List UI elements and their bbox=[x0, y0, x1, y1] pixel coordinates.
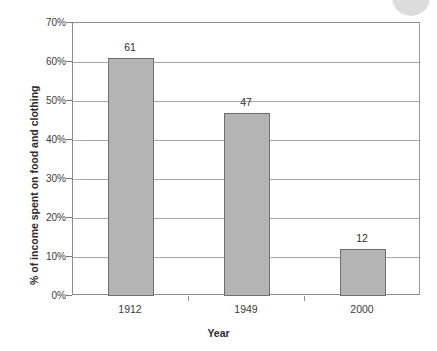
bar bbox=[340, 249, 386, 296]
bar-chart: % of income spent on food and clothing 0… bbox=[0, 0, 437, 351]
y-axis-tick-label: 50% bbox=[6, 95, 66, 106]
bar-value-label: 47 bbox=[240, 96, 252, 108]
bar bbox=[108, 58, 154, 296]
bar-value-label: 12 bbox=[356, 232, 368, 244]
y-axis-tick-label: 20% bbox=[6, 212, 66, 223]
y-axis-tick-label: 0% bbox=[6, 290, 66, 301]
x-axis-category-label: 2000 bbox=[350, 303, 373, 315]
y-axis-tick-mark bbox=[66, 295, 72, 296]
y-axis-tick-label: 70% bbox=[6, 17, 66, 28]
y-axis-tick-label: 30% bbox=[6, 173, 66, 184]
y-axis-tick-label: 60% bbox=[6, 56, 66, 67]
x-axis-tick-mark bbox=[304, 296, 305, 301]
plot-area bbox=[72, 22, 420, 295]
x-axis-tick-mark bbox=[188, 296, 189, 301]
x-axis-category-label: 1912 bbox=[118, 303, 141, 315]
bar bbox=[224, 113, 270, 296]
y-axis-tick-label: 10% bbox=[6, 251, 66, 262]
y-axis-tick-label: 40% bbox=[6, 134, 66, 145]
x-axis-title: Year bbox=[0, 327, 437, 339]
bar-value-label: 61 bbox=[124, 41, 136, 53]
x-axis-category-label: 1949 bbox=[234, 303, 257, 315]
